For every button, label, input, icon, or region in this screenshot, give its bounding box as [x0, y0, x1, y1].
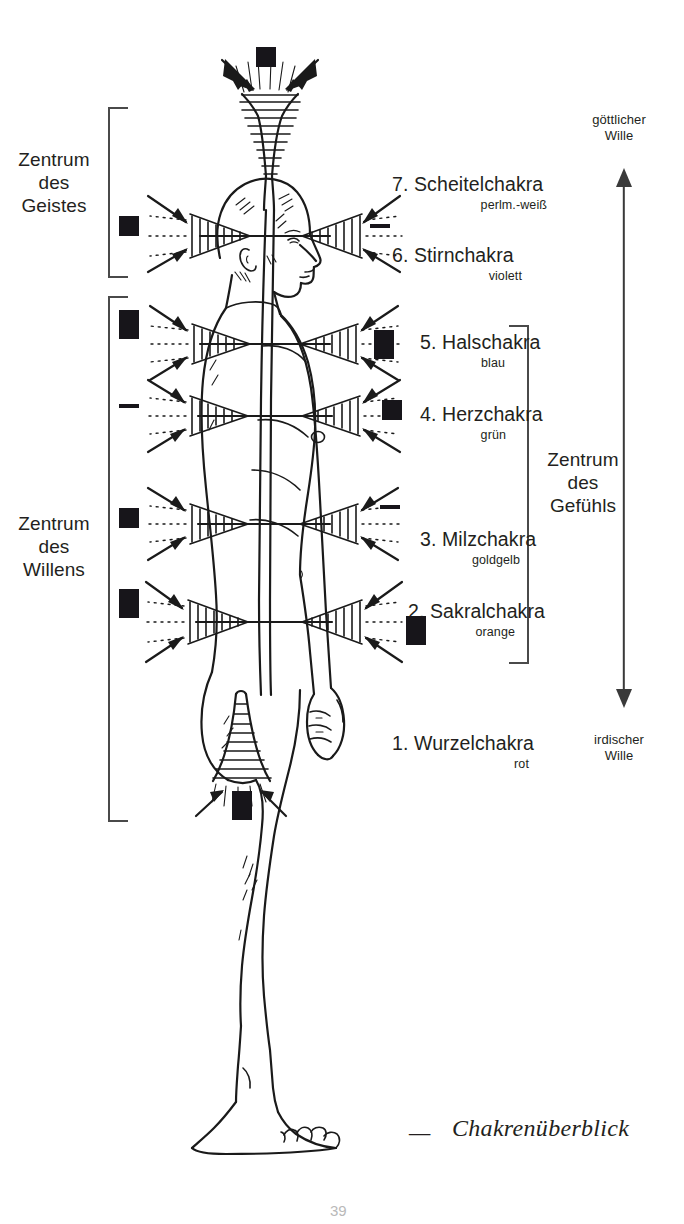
chakra-diagram-page: Zentrum des Geistes Zentrum des Willens … — [0, 0, 684, 1224]
chakra-4-color: grün — [420, 429, 506, 443]
polarity-chakra-5-left — [119, 310, 139, 339]
chakra-1-name: 1. Wurzelchakra — [392, 733, 534, 754]
axis-label-goettlicher-wille: göttlicher Wille — [564, 112, 674, 145]
human-figure-illustration — [0, 0, 684, 1224]
chakra-7-name: 7. Scheitelchakra — [392, 174, 543, 195]
polarity-chakra-6-right-minus — [370, 224, 390, 228]
chakra-6-color: violett — [392, 270, 522, 284]
chakra-5-name: 5. Halschakra — [420, 332, 541, 353]
caption-dash: — — [409, 1119, 431, 1146]
polarity-chakra-2-left — [119, 589, 139, 618]
bracket-zentrum-des-willens — [108, 296, 128, 822]
polarity-chakra-5-right — [374, 330, 394, 359]
chakra-5-color: blau — [420, 357, 505, 371]
chakra-6-name: 6. Stirnchakra — [392, 245, 514, 266]
polarity-chakra-4-right-plus — [382, 400, 402, 420]
polarity-chakra-3-left-plus — [119, 508, 139, 528]
arrow-head-down — [616, 689, 632, 708]
bracket-zentrum-des-geistes — [108, 107, 128, 278]
polarity-chakra-7-plus — [256, 47, 276, 67]
axis-label-irdischer-wille: irdischer Wille — [564, 732, 674, 765]
group-label-zentrum-des-geistes: Zentrum des Geistes — [6, 148, 102, 218]
will-axis-arrow — [606, 168, 642, 708]
chakra-2-funnel-graphic — [146, 600, 402, 644]
page-caption-title: Chakrenüberblick — [452, 1115, 629, 1142]
page-folio-number: 39 — [330, 1202, 347, 1219]
chakra-2-name: 2. Sakralchakra — [408, 601, 545, 622]
chakra-3-color: goldgelb — [420, 554, 520, 568]
polarity-chakra-4-left-minus — [119, 404, 139, 408]
chakra-4-name: 4. Herzchakra — [420, 404, 543, 425]
arrow-shaft — [623, 184, 625, 692]
polarity-chakra-2-right — [406, 616, 426, 645]
polarity-chakra-3-right-minus — [380, 505, 400, 509]
polarity-chakra-1-root — [232, 791, 252, 820]
chakra-3-name: 3. Milzchakra — [420, 529, 536, 550]
chakra-7-color: perlm.-weiß — [392, 199, 547, 213]
chakra-1-color: rot — [392, 758, 529, 772]
legs-graphic — [192, 672, 340, 1154]
chakra-6-funnel-graphic — [148, 214, 402, 258]
polarity-chakra-6-left-plus — [119, 216, 139, 236]
group-label-zentrum-des-willens: Zentrum des Willens — [6, 512, 102, 582]
head-graphic — [217, 179, 320, 314]
